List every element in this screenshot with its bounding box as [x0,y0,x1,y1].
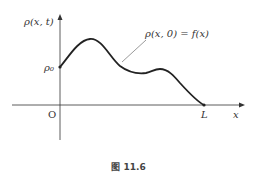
rho0-point [58,65,61,68]
x-axis-arrow-icon [239,103,245,108]
x-end-label: L [201,110,208,120]
origin-label: O [48,110,56,120]
density-curve [60,39,204,105]
diagram-canvas [0,0,257,181]
y-axis-label: ρ(x, t) [24,17,54,27]
x-axis-label: x [233,110,239,120]
l-point [202,103,205,106]
y-axis-arrow-icon [58,14,63,20]
figure-caption: 图 11.6 [0,160,257,173]
annotation-leader [122,40,146,62]
y-intercept-label: ρ₀ [44,63,54,73]
curve-annotation: ρ(x, 0) = f(x) [145,29,209,39]
